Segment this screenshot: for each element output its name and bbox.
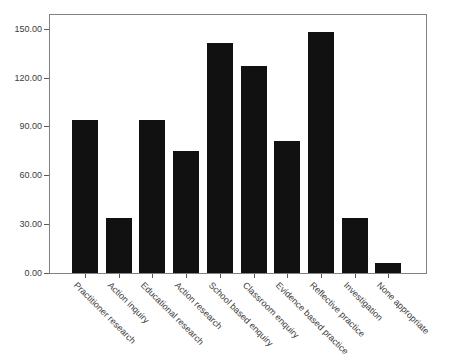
bar [375,263,401,273]
x-tick-mark [220,274,221,278]
y-tick-mark [44,29,49,30]
bar [207,43,233,273]
bar [72,120,98,273]
x-tick-label: None appropriate [375,280,431,336]
x-tick-mark [355,274,356,278]
x-tick-label: Educational research [139,280,206,347]
y-tick-label: 0.00 [2,268,42,278]
x-tick-mark [186,274,187,278]
y-tick-label: 60.00 [2,170,42,180]
y-tick-label: 90.00 [2,121,42,131]
y-tick-mark [44,273,49,274]
x-tick-mark [85,274,86,278]
bar [173,151,199,273]
bar [139,120,165,273]
bar [106,218,132,273]
x-tick-mark [152,274,153,278]
x-tick-mark [254,274,255,278]
bar [274,141,300,273]
y-tick-mark [44,78,49,79]
y-tick-mark [44,126,49,127]
x-tick-label: School based enquiry [207,280,275,348]
y-tick-mark [44,175,49,176]
x-tick-label: Classroom enquiry [240,280,300,340]
y-tick-label: 30.00 [2,219,42,229]
x-tick-mark [321,274,322,278]
bar-chart: 0.0030.0060.0090.00120.00150.00 Practiti… [0,0,450,363]
bar [342,218,368,273]
x-tick-mark [287,274,288,278]
y-tick-mark [44,224,49,225]
y-tick-label: 120.00 [2,73,42,83]
x-tick-mark [119,274,120,278]
y-tick-label: 150.00 [2,24,42,34]
x-tick-mark [388,274,389,278]
x-tick-label: Practitioner research [72,280,138,346]
bar [241,66,267,273]
bar [308,32,334,273]
